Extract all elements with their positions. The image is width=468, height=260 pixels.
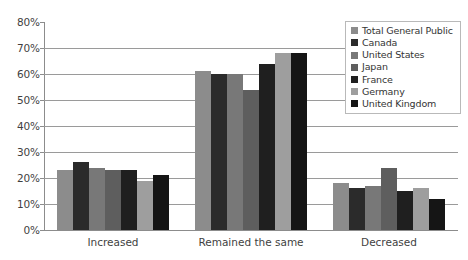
y-axis-labels: 80%70%60%50%40%30%20%10%0% — [0, 0, 40, 260]
y-axis-tick-label: 40% — [4, 121, 40, 132]
legend-item: United Kingdom — [351, 98, 456, 110]
legend-item: Germany — [351, 86, 456, 98]
bar-group — [57, 22, 169, 230]
bar — [195, 71, 211, 230]
bar — [105, 170, 121, 230]
legend-item-label: France — [362, 75, 393, 85]
bar — [137, 181, 153, 230]
y-axis-tick-label: 20% — [4, 173, 40, 184]
legend-item-label: United States — [362, 50, 424, 60]
bar — [413, 188, 429, 230]
x-axis-category-label: Remained the same — [181, 236, 321, 248]
bar — [349, 188, 365, 230]
bar — [57, 170, 73, 230]
legend-swatch-icon — [351, 76, 358, 83]
bar — [381, 168, 397, 230]
y-axis-tick-label: 80% — [4, 17, 40, 28]
bar — [243, 90, 259, 230]
legend-swatch-icon — [351, 39, 358, 46]
legend-swatch-icon — [351, 52, 358, 59]
y-axis-tick-label: 60% — [4, 69, 40, 80]
legend-item: Japan — [351, 62, 456, 74]
bar — [227, 74, 243, 230]
bar — [397, 191, 413, 230]
y-axis-tick-label: 10% — [4, 199, 40, 210]
bar — [291, 53, 307, 230]
y-axis-tick-label: 50% — [4, 95, 40, 106]
bar — [275, 53, 291, 230]
bar-chart: 80%70%60%50%40%30%20%10%0% IncreasedRema… — [0, 0, 468, 260]
y-axis-tick-label: 0% — [4, 225, 40, 236]
legend-swatch-icon — [351, 27, 358, 34]
legend-item-label: Germany — [362, 87, 405, 97]
legend-item: Total General Public — [351, 25, 456, 37]
legend-item-label: Canada — [362, 38, 397, 48]
legend-item-label: Japan — [362, 62, 388, 72]
bar-group — [195, 22, 307, 230]
y-axis-tick-mark — [40, 22, 44, 23]
bar — [365, 186, 381, 230]
bar — [333, 183, 349, 230]
bar — [121, 170, 137, 230]
legend-swatch-icon — [351, 100, 358, 107]
legend-item: France — [351, 74, 456, 86]
x-axis-category-label: Increased — [43, 236, 183, 248]
legend-swatch-icon — [351, 88, 358, 95]
legend: Total General PublicCanadaUnited StatesJ… — [345, 21, 461, 114]
bar — [153, 175, 169, 230]
legend-item: Canada — [351, 37, 456, 49]
y-axis-tick-label: 30% — [4, 147, 40, 158]
y-axis-tick-mark — [40, 230, 44, 231]
legend-item-label: Total General Public — [362, 26, 453, 36]
bar — [259, 64, 275, 230]
bar — [89, 168, 105, 230]
y-axis-tick-label: 70% — [4, 43, 40, 54]
legend-swatch-icon — [351, 64, 358, 71]
legend-item-label: United Kingdom — [362, 99, 436, 109]
bar — [73, 162, 89, 230]
legend-item: United States — [351, 49, 456, 61]
bar — [429, 199, 445, 230]
x-axis-category-label: Decreased — [319, 236, 459, 248]
x-axis-line — [44, 230, 458, 231]
bar — [211, 74, 227, 230]
